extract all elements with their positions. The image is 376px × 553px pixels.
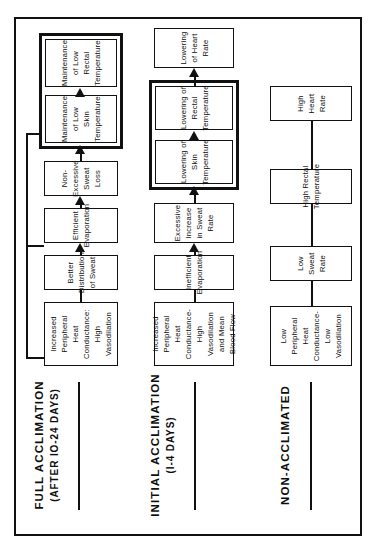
node-non-low-sweat-rate[interactable]: Low Sweat Rate xyxy=(270,246,352,281)
node-full-better-distribution-of-sweat[interactable]: Better Distribution of Sweat xyxy=(44,255,118,290)
feedback-drop-n1 xyxy=(26,357,44,359)
node-full-maintenance-low-rectal-temperature[interactable]: Maintenance of Low Rectal Temperature xyxy=(45,39,117,87)
band-non-acclimated-header: NON-ACCLIMATED xyxy=(278,370,294,520)
figure-rotation-wrapper: FULL ACCLIMATION (AFTER IO-24 DAYS) Incr… xyxy=(0,0,376,553)
node-non-low-peripheral-heat-conductance[interactable]: Low Peripheral Heat Conductance-Low Vaso… xyxy=(270,306,352,366)
band-initial-acclimation-title: INITIAL ACCLIMATION xyxy=(149,373,161,516)
node-initial-inefficient-evaporation[interactable]: Inefficient Evaporation xyxy=(154,255,234,290)
band-initial-acclimation: INITIAL ACCLIMATION (I-4 DAYS) Increased… xyxy=(132,19,248,534)
link-non-n3-n4 xyxy=(311,121,313,169)
node-full-efficient-evaporation[interactable]: Efficient Evaporation xyxy=(44,208,118,243)
arrowhead-full-n4-n5 xyxy=(75,145,85,154)
arrowhead-full-n5-n6 xyxy=(75,88,85,97)
link-non-n1-n2 xyxy=(311,281,313,306)
node-initial-increased-peripheral-heat-conductance[interactable]: Increased Peripheral Heat Conductance-Hi… xyxy=(154,302,234,366)
node-non-high-heart-rate[interactable]: High Heart Rate xyxy=(270,86,352,121)
node-initial-lowering-of-heart-rate[interactable]: Lowering of Heart Rate xyxy=(154,28,234,68)
band-full-acclimation: FULL ACCLIMATION (AFTER IO-24 DAYS) Incr… xyxy=(16,19,132,534)
link-non-n2-n3 xyxy=(311,204,313,246)
arrowhead-initial-n4-n5 xyxy=(189,131,199,140)
node-full-maintenance-low-skin-temperature[interactable]: Maintenance of Low Skin Temperature xyxy=(45,95,117,143)
figure-outer-frame: FULL ACCLIMATION (AFTER IO-24 DAYS) Incr… xyxy=(14,17,362,536)
band-non-acclimated-title: NON-ACCLIMATED xyxy=(279,385,291,505)
arrowhead-full-n3-n4 xyxy=(75,196,85,205)
node-initial-lowering-of-skin-temperature[interactable]: Lowering of Skin Temperature xyxy=(155,140,233,184)
link-initial-n1-n2 xyxy=(194,290,196,302)
band-full-acclimation-title: FULL ACCLIMATION xyxy=(33,380,45,509)
band-non-acclimated-rule xyxy=(310,382,312,510)
band-full-acclimation-subtitle: (AFTER IO-24 DAYS) xyxy=(48,370,62,520)
node-initial-lowering-of-rectal-temperature[interactable]: Lowering of Rectal Temperature xyxy=(155,86,233,130)
arrowhead-initial-n2-n3 xyxy=(189,243,199,252)
arrowhead-initial-n3-n4 xyxy=(189,186,199,195)
band-initial-acclimation-rule xyxy=(194,382,196,510)
arrowhead-full-n2-n3 xyxy=(75,243,85,252)
feedback-drop-n3 xyxy=(26,245,44,247)
band-initial-acclimation-header: INITIAL ACCLIMATION (I-4 DAYS) xyxy=(148,370,177,520)
band-full-acclimation-rule xyxy=(78,382,80,510)
node-initial-excessive-increase-in-sweat-rate[interactable]: Excessive Increase in Sweat Rate xyxy=(154,203,234,243)
band-initial-acclimation-subtitle: (I-4 DAYS) xyxy=(164,370,178,520)
node-non-high-rectal-temperature[interactable]: High Rectal Temperature xyxy=(270,169,352,204)
band-full-acclimation-header: FULL ACCLIMATION (AFTER IO-24 DAYS) xyxy=(32,370,61,520)
band-non-acclimated: NON-ACCLIMATED Low Peripheral Heat Condu… xyxy=(248,19,364,534)
link-full-n1-n2 xyxy=(80,290,82,302)
node-full-increased-peripheral-heat-conductance[interactable]: Increased Peripheral Heat Conductance: H… xyxy=(44,302,118,366)
node-full-non-excessive-sweat-loss[interactable]: Non-Excessive Sweat Loss xyxy=(44,161,118,196)
arrowhead-initial-n5-n6 xyxy=(189,68,199,77)
